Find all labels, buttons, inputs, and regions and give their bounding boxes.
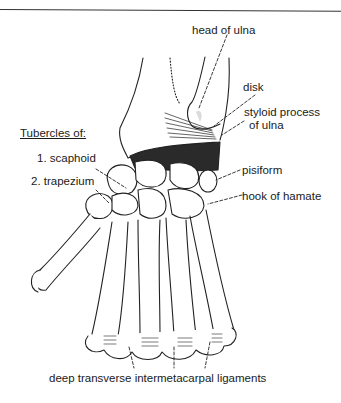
ring-metacarpal <box>166 218 196 336</box>
leader-pisiform <box>216 170 240 180</box>
pisiform <box>199 170 217 192</box>
label-ligaments: deep transverse intermetacarpal ligament… <box>49 372 266 385</box>
label-hook-of-hamate: hook of hamate <box>242 190 321 203</box>
thumb-metacarpal <box>36 214 100 290</box>
leader-styloid <box>222 121 244 135</box>
label-scaphoid: 1. scaphoid <box>37 152 96 165</box>
label-pisiform: pisiform <box>242 164 282 177</box>
trapezoid <box>112 193 138 215</box>
label-styloid-line1: styloid process <box>244 106 320 119</box>
hamate <box>168 189 204 218</box>
label-trapezium: 2. trapezium <box>31 175 94 188</box>
label-tubercles-heading: Tubercles of: <box>20 127 86 140</box>
ulna-bone <box>188 57 230 140</box>
little-metacarpal <box>190 210 234 334</box>
leader-head-of-ulna <box>199 35 227 108</box>
label-styloid-line2: of ulna <box>249 119 284 132</box>
middle-metacarpal <box>138 220 160 336</box>
disk-ligament <box>165 113 216 139</box>
leader-hamate <box>208 195 242 204</box>
label-head-of-ulna: head of ulna <box>192 24 255 37</box>
metacarpal-bones <box>31 210 236 360</box>
lunate <box>135 160 166 187</box>
index-metacarpal <box>92 222 128 336</box>
scaphoid <box>107 165 137 195</box>
label-disk: disk <box>243 81 263 94</box>
capitate <box>138 189 166 219</box>
